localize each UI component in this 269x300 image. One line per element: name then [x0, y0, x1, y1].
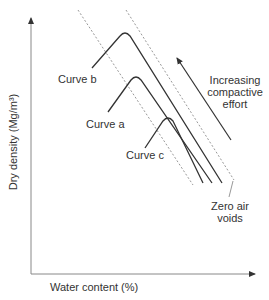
curve-b-label: Curve b	[58, 73, 97, 85]
y-axis-label: Dry density (Mg/m³)	[7, 87, 19, 197]
arrow-label-line3: effort	[205, 98, 265, 110]
zero-air-voids-label: Zero air voids	[203, 200, 257, 224]
zav-label-line1: Zero air	[203, 200, 257, 212]
zav-leader-line	[229, 181, 233, 197]
zav-label-line2: voids	[203, 212, 257, 224]
curve-a	[108, 77, 212, 183]
curve-c-label: Curve c	[126, 149, 164, 161]
compactive-effort-label: Increasing compactive effort	[205, 74, 265, 110]
curve-a-label: Curve a	[86, 118, 125, 130]
x-axis-label: Water content (%)	[50, 281, 138, 293]
arrow-label-line1: Increasing	[205, 74, 265, 86]
arrow-label-line2: compactive	[205, 86, 265, 98]
